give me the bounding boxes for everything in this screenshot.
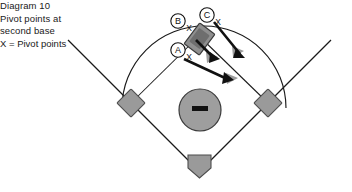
marker-c-x: X [215,17,221,27]
pitchers-mound [179,89,221,131]
home-plate [188,155,211,178]
marker-b-x: X [186,23,192,33]
marker-a-label: A [175,45,181,55]
diagram-canvas: B X C X A X Diagram 10 Pivot points at s… [0,0,352,192]
marker-a-x: X [186,52,192,62]
arrow-from-c [214,22,245,58]
baseball-field-svg: B X C X A X [0,0,352,192]
marker-c-label: C [204,10,211,20]
marker-b-label: B [175,16,181,26]
pitching-rubber-icon [192,106,208,111]
marker-c: C X [200,8,221,27]
